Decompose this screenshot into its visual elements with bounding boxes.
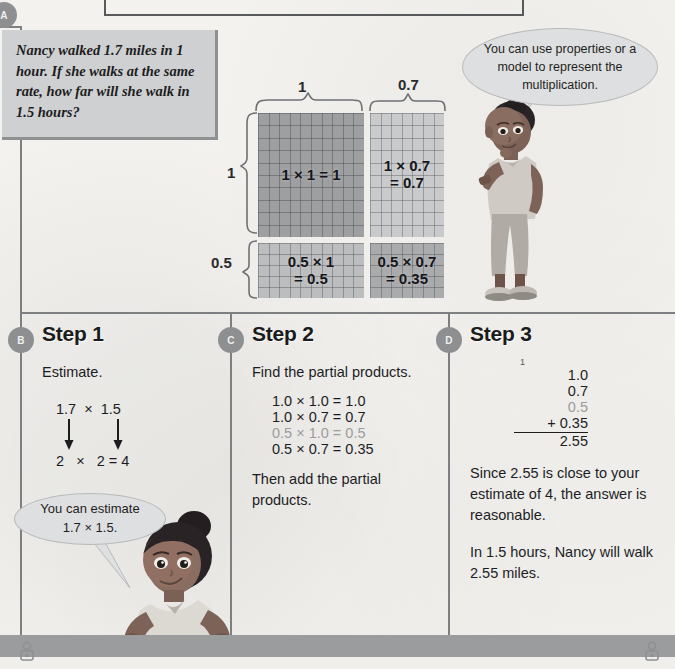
person-icon-left [18,641,36,663]
model-cell-bottom-left: 0.5 × 1 = 0.5 [258,243,364,298]
step3-carry: 1 [514,358,588,367]
step2-products-list: 1.0 × 1.0 = 1.0 1.0 × 0.7 = 0.7 0.5 × 1.… [272,393,442,457]
footer-strip [0,657,675,669]
step2-product-2: 1.0 × 0.7 = 0.7 [272,409,442,425]
step2-closing: Then add the partial products. [252,469,442,511]
step1-title: Step 1 [42,322,222,346]
speech-bubble-bottom-line2: 1.7 × 1.5. [63,520,118,535]
step2-title: Step 2 [252,322,442,346]
step3-sum: 2.55 [514,432,588,449]
model-left-label-05: 0.5 [211,254,232,271]
problem-text: Nancy walked 1.7 miles in 1 hour. If she… [16,40,201,122]
step1-top-row: 1.7 × 1.5 [56,401,222,417]
speech-bubble-bottom-line1: You can estimate [40,501,139,516]
model-cell-bl-line2: = 0.5 [294,270,328,287]
model-cell-tr-line1: 1 × 0.7 [384,157,430,174]
speech-bubble-bottom: You can estimate 1.7 × 1.5. [14,493,166,545]
model-left-label-1: 1 [227,164,235,181]
model-cell-top-left: 1 × 1 = 1 [258,113,364,237]
person-icon-right [643,641,661,663]
area-model-grid: 1 × 1 = 1 1 × 0.7 = 0.7 0.5 × 1 = 0.5 0.… [258,113,444,298]
step2-product-3: 0.5 × 1.0 = 0.5 [272,425,442,441]
problem-statement-box: Nancy walked 1.7 miles in 1 hour. If she… [2,30,218,140]
section-badge-c: C [218,327,244,353]
step3-addition-column: 1 1.0 0.7 0.5 + 0.35 2.55 [514,358,588,449]
model-cell-bl-line1: 0.5 × 1 [288,253,334,270]
step3-addend-2: 0.7 [514,383,588,399]
step3-addend-3: 0.5 [514,399,588,415]
step3-title: Step 3 [470,322,666,346]
step3-paragraph-2: In 1.5 hours, Nancy will walk 2.55 miles… [470,542,666,584]
boy-character [458,96,570,312]
section-badge-b: B [8,327,34,353]
step1-instruction: Estimate. [42,362,222,383]
rule-vertical-step1 [20,312,22,647]
model-cell-tr-line2: = 0.7 [390,174,424,191]
model-cell-br-line2: = 0.35 [386,270,428,287]
speech-bubble-top: You can use properties or a model to rep… [462,28,658,106]
step3-addend-1: 1.0 [514,367,588,383]
footer-bar [0,635,675,657]
speech-bubble-top-text: You can use properties or a model to rep… [479,40,641,94]
step2-instruction: Find the partial products. [252,362,442,383]
model-top-label-07: 0.7 [398,76,419,93]
step3-paragraph-1: Since 2.55 is close to your estimate of … [470,463,666,526]
model-cell-top-right: 1 × 0.7 = 0.7 [370,113,444,237]
model-cell-br-line1: 0.5 × 0.7 [378,253,437,270]
step1-bottom-row: 2 × 2 = 4 [56,453,222,469]
top-outline-box [104,0,524,16]
step2-product-4: 0.5 × 0.7 = 0.35 [272,441,442,457]
step1-panel: Step 1 Estimate. 1.7 × 1.5 2 × 2 = 4 [42,322,222,469]
model-cell-bottom-right: 0.5 × 0.7 = 0.35 [370,243,444,298]
step3-panel: Step 3 1 1.0 0.7 0.5 + 0.35 2.55 Since 2… [470,322,666,583]
model-cell-tl-line1: 1 × 1 = 1 [281,166,340,183]
worksheet-page: A Nancy walked 1.7 miles in 1 hour. If s… [0,0,675,669]
section-badge-d: D [436,327,462,353]
rule-steps-top [20,312,675,314]
step1-arrows [56,417,196,453]
step2-product-1: 1.0 × 1.0 = 1.0 [272,393,442,409]
step2-panel: Step 2 Find the partial products. 1.0 × … [252,322,442,511]
top-braces [254,92,450,112]
step3-addend-4: + 0.35 [514,415,588,431]
rule-vertical-step3 [448,312,450,647]
left-braces [240,110,260,300]
section-badge-a: A [0,2,17,28]
